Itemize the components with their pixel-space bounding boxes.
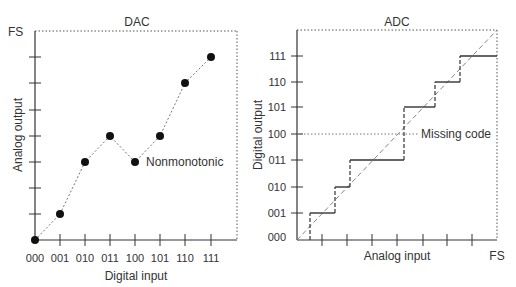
svg-text:011: 011: [101, 252, 119, 264]
svg-text:111: 111: [203, 252, 220, 264]
svg-text:001: 001: [51, 252, 69, 264]
svg-text:001: 001: [268, 207, 286, 219]
dac-data-points: [31, 53, 215, 244]
dac-nonmonotonic-annotation: Nonmonotonic: [146, 155, 223, 169]
svg-text:100: 100: [126, 252, 144, 264]
dac-point-011: [106, 132, 114, 140]
svg-text:101: 101: [268, 101, 286, 113]
dac-panel: DAC FS 000: [8, 15, 237, 283]
dac-point-010: [81, 158, 89, 166]
dac-x-tick-labels: 000 001 010 011 100 101 110 111: [26, 252, 220, 264]
svg-text:010: 010: [76, 252, 94, 264]
adc-title: ADC: [384, 15, 410, 29]
adc-missing-code-annotation: Missing code: [421, 127, 491, 141]
svg-text:010: 010: [268, 181, 286, 193]
adc-y-axis-label: Digital output: [251, 99, 265, 170]
adc-y-tick-labels: 000 001 010 011 100 101 110 111: [268, 50, 286, 243]
dac-adc-diagram: DAC FS 000: [0, 0, 516, 287]
adc-x-axis-label: Analog input: [364, 249, 431, 263]
svg-text:101: 101: [151, 252, 169, 264]
dac-point-001: [56, 210, 64, 218]
dac-point-101: [156, 132, 164, 140]
adc-panel: ADC 000 001: [251, 15, 505, 263]
svg-text:111: 111: [269, 50, 286, 62]
svg-text:100: 100: [268, 128, 286, 140]
svg-text:110: 110: [176, 252, 194, 264]
dac-y-axis-label: Analog output: [11, 97, 25, 172]
svg-text:000: 000: [268, 231, 286, 243]
dac-point-100: [131, 158, 139, 166]
dac-point-111: [207, 53, 215, 61]
adc-fs-label: FS: [489, 249, 504, 263]
dac-fs-label: FS: [8, 25, 23, 39]
svg-text:110: 110: [268, 76, 286, 88]
svg-text:000: 000: [26, 252, 44, 264]
dac-point-000: [31, 236, 39, 244]
dac-title: DAC: [124, 15, 150, 29]
dac-point-110: [181, 79, 189, 87]
svg-text:011: 011: [268, 154, 286, 166]
dac-x-axis-label: Digital input: [105, 269, 168, 283]
